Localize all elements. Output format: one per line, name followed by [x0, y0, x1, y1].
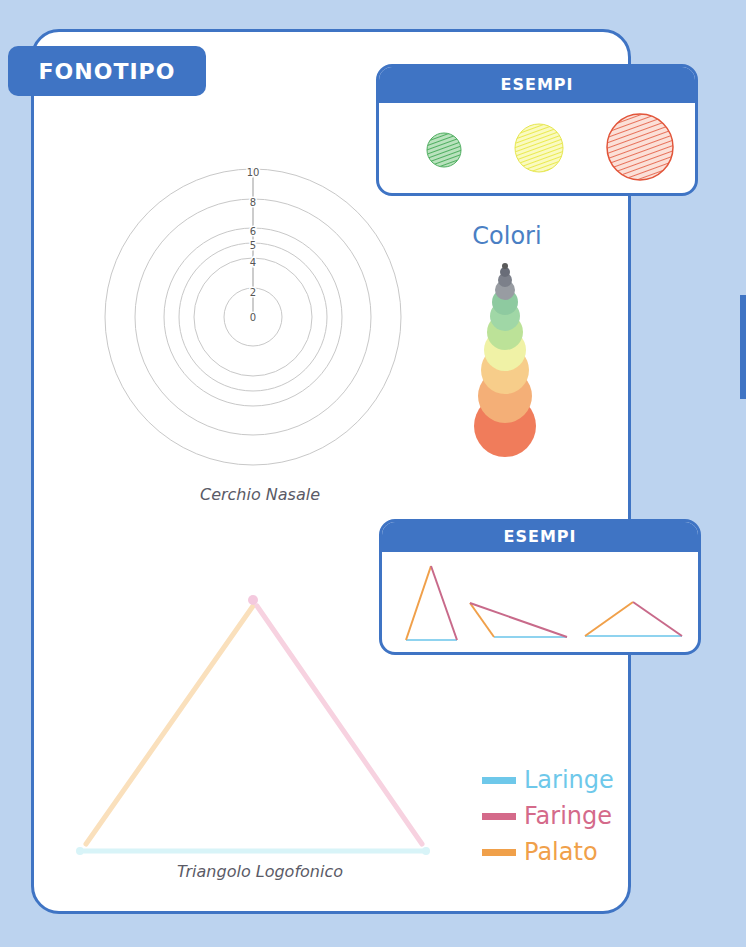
svg-text:10: 10 — [247, 167, 260, 178]
legend-item-palato: Palato — [482, 834, 614, 870]
colori-title: Colori — [452, 222, 562, 250]
example-green-circle — [427, 133, 461, 167]
legend-item-faringe: Faringe — [482, 798, 614, 834]
svg-text:5: 5 — [250, 240, 256, 251]
example-yellow-circle — [515, 124, 563, 172]
example-red-circle — [607, 114, 673, 180]
legend-label: Palato — [524, 838, 598, 866]
page-title: FONOTIPO — [8, 46, 206, 96]
examples-header: ESEMPI — [382, 522, 698, 552]
color-scale — [462, 258, 552, 468]
triangle-caption: Triangolo Logofonico — [120, 862, 400, 881]
legend-item-laringe: Laringe — [482, 762, 614, 798]
svg-text:2: 2 — [250, 287, 256, 298]
legend-label: Laringe — [524, 766, 614, 794]
nasal-circle-chart: 10 8 6 5 4 2 0 — [96, 163, 416, 483]
logofonic-triangle — [70, 590, 440, 860]
legend: Laringe Faringe Palato — [482, 762, 614, 870]
faringe-swatch — [482, 813, 516, 820]
svg-text:8: 8 — [250, 197, 256, 208]
palato-swatch — [482, 849, 516, 856]
svg-text:4: 4 — [250, 257, 256, 268]
laringe-swatch — [482, 777, 516, 784]
example-circles — [379, 103, 695, 193]
nasal-circle-caption: Cerchio Nasale — [150, 485, 370, 504]
svg-text:0: 0 — [250, 312, 256, 323]
side-tab — [740, 295, 746, 399]
examples-circles-box: ESEMPI — [376, 64, 698, 196]
legend-label: Faringe — [524, 802, 612, 830]
examples-header: ESEMPI — [379, 67, 695, 103]
svg-text:6: 6 — [250, 226, 256, 237]
